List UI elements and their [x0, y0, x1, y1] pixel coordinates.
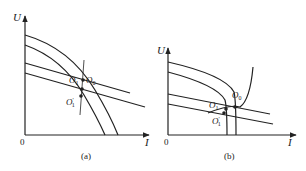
svg-text:O0: O0 [232, 90, 242, 101]
y-axis-label-b: U [157, 44, 166, 56]
svg-text:O0: O0 [86, 75, 96, 86]
point-o1prime-a [79, 94, 83, 98]
svg-text:O′1: O′1 [66, 97, 75, 108]
svg-text:O1: O1 [209, 100, 219, 111]
curve-outer-b [168, 62, 236, 135]
x-axis-label-a: I [144, 136, 150, 148]
point-o0-b [233, 105, 237, 109]
svg-text:O1: O1 [69, 75, 79, 86]
caption-b: (b) [224, 151, 235, 161]
load-line-upper-b [168, 94, 270, 114]
point-o1prime-b [222, 111, 226, 115]
point-o0-a [81, 78, 85, 82]
caption-a: (a) [81, 151, 91, 161]
origin-label-a: 0 [20, 137, 25, 147]
point-o1-b [224, 107, 228, 111]
origin-label-b: 0 [164, 137, 169, 147]
load-line-lower-a [25, 73, 145, 107]
diagram-canvas: U I 0 (a) O0 O1 O′1 U I 0 (b) O0 O1 O′1 [0, 0, 306, 171]
svg-text:O′1: O′1 [212, 116, 221, 127]
point-o1-a [80, 87, 84, 91]
curve-inner-a [25, 45, 105, 135]
y-axis-label-a: U [13, 11, 22, 23]
x-axis-label-b: I [287, 136, 293, 148]
